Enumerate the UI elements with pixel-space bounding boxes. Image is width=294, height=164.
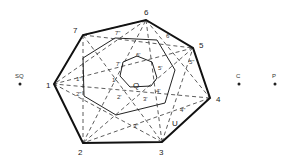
inner-label-4: 4' [156,88,160,94]
inner-vertex-labels: 1' 2' 3' 4' 5' 6' 7' [112,52,162,102]
inner-label-7: 7' [116,61,120,67]
point-label-c: C [236,73,241,79]
middle-label-4: 4" [180,107,185,113]
point-label-sq: SQ [15,73,24,79]
middle-label-6: 6" [166,33,171,39]
vertex-label-1: 1 [46,81,51,90]
vertex-label-7: 7 [73,26,78,35]
point-label-u: U [172,119,178,128]
middle-label-2: 2" [76,91,81,97]
middle-vertex-labels: 1" 3" 4" 5" 6" 7" 2" [76,30,194,129]
vertex-label-2: 2 [78,148,83,157]
point-c-dot [238,83,241,86]
heptagon-diagram: 1 2 3 4 5 6 7 1" 3" 4" 5" 6" 7" 2" 1' 2'… [0,0,294,164]
inner-label-1: 1' [112,77,116,83]
middle-label-5: 5" [189,59,194,65]
vertex-label-4: 4 [216,95,221,104]
center-label-q: Q [133,81,139,90]
inner-label-2: 2' [117,94,121,100]
middle-label-1: 1" [76,76,81,82]
middle-label-7: 7" [115,30,120,36]
inner-label-3: 3' [143,96,147,102]
point-p-dot [274,83,277,86]
point-sq-dot [19,83,22,86]
vertex-label-3: 3 [159,148,164,157]
inner-label-5: 5' [158,65,162,71]
middle-label-3: 3" [133,123,138,129]
vertex-label-5: 5 [199,41,204,50]
point-label-p: P [272,73,276,79]
vertex-label-6: 6 [144,8,149,17]
inner-label-6: 6' [136,52,140,58]
